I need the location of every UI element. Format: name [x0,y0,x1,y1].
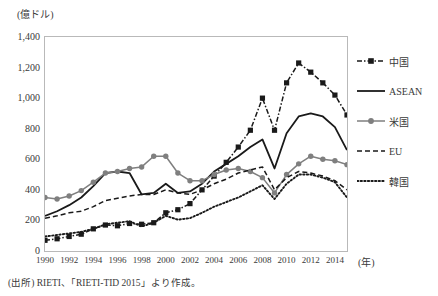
series-marker [308,70,313,75]
y-tick-label: 1,200 [0,63,40,73]
series-marker [163,154,168,159]
legend-swatch-icon [357,55,385,67]
series-marker [115,223,120,228]
x-tick-label: 2006 [229,255,247,266]
series-marker [332,158,337,163]
series-marker [332,92,337,97]
series-marker [284,80,289,85]
series-marker [127,166,132,171]
legend-item-2[interactable]: ASEAN [357,76,437,106]
series-marker [45,195,48,200]
x-tick-label: 2012 [302,255,320,266]
series-marker [103,170,108,175]
series-marker [163,210,168,215]
y-tick-label: 800 [0,124,40,134]
x-tick-label: 1994 [84,255,102,266]
x-tick-label: 2008 [253,255,271,266]
series-marker [79,188,84,193]
plot-area [44,36,348,252]
y-axis-unit-label: (億ドル) [17,6,54,21]
series-marker [320,80,325,85]
x-tick-label: 2004 [205,255,223,266]
legend-item-1[interactable]: 中国 [357,46,437,76]
series-3 [45,154,347,202]
y-tick-label: 1,400 [0,32,40,42]
series-marker [175,207,180,212]
series-marker [187,178,192,183]
legend-label: 中国 [389,54,409,69]
series-marker [248,128,253,133]
legend-item-3[interactable]: 米国 [357,106,437,136]
legend-label: ASEAN [389,86,422,97]
y-tick-label: 0 [0,246,40,256]
series-marker [66,193,71,198]
x-axis-tick-labels: 1990199219941996199820002002200420062008… [44,255,348,269]
y-axis-tick-labels: 1,4001,2001,0008006004002000 [0,36,40,252]
figure-container: (億ドル) 1,4001,2001,0008006004002000 19901… [0,0,438,296]
source-note: (出所) RIETI、「RIETI-TID 2015」より作成。 [8,275,201,289]
x-tick-label: 1990 [36,255,54,266]
series-marker [272,128,277,133]
legend-label: EU [389,146,402,157]
series-marker [91,180,96,185]
series-marker [199,178,204,183]
series-marker [296,161,301,166]
x-tick-label: 2000 [157,255,175,266]
legend-label: 韓国 [389,174,409,189]
x-tick-label: 2014 [326,255,344,266]
legend-swatch-icon [357,175,385,187]
legend-item-4[interactable]: EU [357,136,437,166]
series-marker [344,112,347,117]
series-2 [45,113,347,215]
series-marker [175,170,180,175]
series-marker [236,144,241,149]
y-tick-label: 600 [0,154,40,164]
x-tick-label: 1998 [133,255,151,266]
chart-legend: 中国ASEAN米国EU韓国 [357,46,437,196]
legend-swatch-icon [357,145,385,157]
legend-swatch-icon [357,85,385,97]
series-marker [224,167,229,172]
series-marker [260,96,265,101]
x-tick-label: 2002 [181,255,199,266]
x-axis-unit-label: (年) [358,254,375,269]
legend-label: 米国 [389,114,409,129]
series-marker [54,196,59,201]
y-tick-label: 200 [0,215,40,225]
series-marker [236,166,241,171]
series-marker [67,234,72,239]
series-marker [344,162,347,167]
chart-lines [45,37,347,251]
series-marker [139,164,144,169]
x-tick-label: 1992 [60,255,78,266]
series-marker [308,154,313,159]
legend-item-5[interactable]: 韓国 [357,166,437,196]
y-tick-label: 1,000 [0,93,40,103]
series-line [45,63,347,240]
series-marker [320,157,325,162]
x-tick-label: 1996 [108,255,126,266]
series-marker [54,236,59,241]
series-marker [151,154,156,159]
series-marker [115,169,120,174]
series-marker [211,172,216,177]
series-marker [296,60,301,65]
series-marker [260,175,265,180]
y-tick-label: 400 [0,185,40,195]
series-line [45,113,347,215]
series-marker [45,238,48,243]
series-marker [187,201,192,206]
x-tick-label: 2010 [278,255,296,266]
legend-swatch-icon [357,115,385,127]
series-marker [272,190,277,195]
